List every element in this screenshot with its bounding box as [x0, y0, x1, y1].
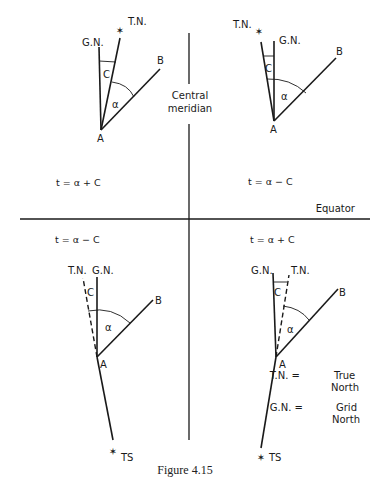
formula: t = α − C [55, 234, 100, 245]
legend-gn-key: G.N. = [270, 402, 303, 413]
gn-label: G.N. [92, 265, 114, 276]
a-label: A [100, 359, 107, 370]
star-icon: ✶ [116, 25, 124, 36]
alpha-label: α [112, 99, 119, 110]
b-label: B [155, 295, 162, 306]
a-label: A [97, 133, 104, 144]
equator-label: Equator [316, 203, 356, 214]
legend: T.N. = True North G.N. = Grid North [269, 370, 360, 425]
tn-label: T.N. [232, 19, 252, 30]
c-label: C [274, 287, 281, 298]
quadrant-top-left: ✶ T.N. G.N. C α A B t = α + C [56, 16, 164, 188]
b-label: B [157, 55, 164, 66]
star-icon: ✶ [257, 452, 265, 463]
gn-label: G.N. [279, 35, 301, 46]
formula: t = α − C [248, 176, 293, 187]
a-label: A [279, 359, 286, 370]
quadrant-top-right: ✶ T.N. G.N. C α A B t = α − C [232, 19, 343, 187]
legend-gn-value-2: North [332, 414, 360, 425]
b-label: B [336, 46, 343, 57]
legend-gn-value: Grid [336, 402, 357, 413]
c-label: C [265, 63, 272, 74]
formula: t = α + C [250, 234, 295, 245]
tn-label: T.N. [127, 16, 147, 27]
alpha-label: α [287, 324, 294, 335]
star-icon: ✶ [255, 26, 263, 37]
c-label: C [103, 69, 110, 80]
legend-tn-key: T.N. = [269, 370, 300, 381]
alpha-arc [283, 306, 309, 320]
gn-label: G.N. [82, 37, 104, 48]
alpha-label: α [105, 322, 112, 333]
grid-north-line [273, 273, 276, 357]
formula: t = α + C [56, 177, 101, 188]
alpha-label: α [281, 91, 288, 102]
legend-tn-value-2: North [331, 382, 359, 393]
ts-label: TS [120, 452, 133, 463]
a-label: A [270, 124, 277, 135]
c-arc [99, 61, 116, 62]
alpha-arc [112, 82, 134, 97]
figure-caption: Figure 4.15 [157, 463, 212, 477]
tn-label: T.N. [290, 265, 310, 276]
central-meridian-label: Central [172, 90, 208, 101]
quadrant-bottom-left: ✶ T.N. G.N. C α A B TS t = α − C [55, 234, 162, 463]
b-label: B [339, 287, 346, 298]
quadrant-bottom-right: ✶ G.N. T.N. C α A B TS t = α + C [250, 234, 346, 463]
gn-label: G.N. [251, 265, 273, 276]
true-north-line [101, 38, 120, 130]
true-north-line [261, 42, 274, 121]
line-to-b [274, 58, 336, 121]
grid-north-line [99, 47, 101, 130]
tn-label: T.N. [67, 265, 87, 276]
ts-label: TS [268, 452, 281, 463]
legend-tn-value: True [333, 370, 355, 381]
star-icon: ✶ [109, 446, 117, 457]
grid-convergence-diagram: Central meridian Equator ✶ T.N. G.N. C α… [0, 0, 384, 490]
c-label: C [87, 287, 94, 298]
central-meridian-label-2: meridian [168, 103, 212, 114]
